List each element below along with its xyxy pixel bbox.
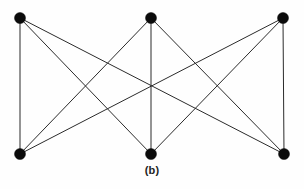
graph-vertex [278, 13, 289, 24]
graph-vertex [15, 149, 26, 160]
graph-vertex [15, 13, 26, 24]
graph-vertex [279, 149, 290, 160]
edge-layer [20, 18, 284, 154]
graph-edge [283, 18, 284, 154]
graph-diagram [0, 0, 304, 189]
figure-caption: (b) [0, 163, 304, 177]
graph-vertex [146, 13, 157, 24]
figure-container: (b) [0, 0, 304, 189]
graph-vertex [146, 149, 157, 160]
